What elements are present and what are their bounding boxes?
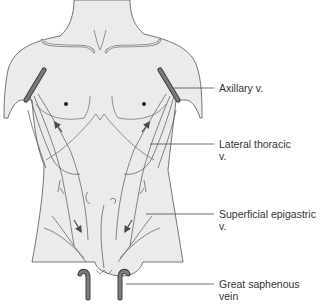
label-line: v. [219,150,291,162]
label-axillary-vein: Axillary v. [219,82,263,94]
label-line: Superficial epigastric [219,208,316,220]
label-great-saphenous-vein: Great saphenous vein [219,278,300,302]
label-line: v. [219,220,316,232]
label-line: Lateral thoracic [219,138,291,150]
label-line: Axillary v. [219,82,263,94]
label-superficial-epigastric-vein: Superficial epigastric v. [219,208,316,232]
label-line: Great saphenous [219,278,300,290]
label-lateral-thoracic-vein: Lateral thoracic v. [219,138,291,162]
label-line: vein [219,290,300,302]
nipple-dot-left [64,102,68,106]
nipple-dot-right [142,102,146,106]
